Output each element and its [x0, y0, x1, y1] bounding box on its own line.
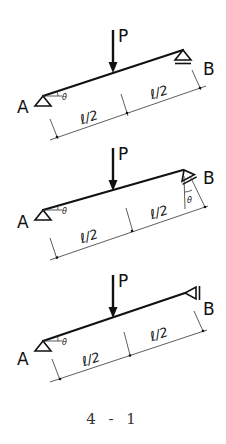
- label-b: B: [203, 168, 215, 188]
- load-arrow-icon: [109, 30, 118, 73]
- span-right-label: ℓ/2: [147, 324, 170, 344]
- pin-support-icon: [35, 210, 51, 220]
- span-left-label: ℓ/2: [77, 107, 100, 127]
- diagram-a: P A θ B ℓ/2 ℓ/2: [17, 26, 215, 140]
- diagram-c: P A θ B ℓ/2 ℓ/2: [17, 271, 215, 382]
- angle-label: θ: [62, 338, 67, 347]
- label-a: A: [17, 97, 29, 117]
- angle-label: θ: [62, 207, 67, 216]
- span-left-label: ℓ/2: [77, 226, 100, 246]
- load-label: P: [118, 26, 128, 46]
- angle-label: θ: [62, 93, 67, 102]
- diagram-b: P A θ B θ ℓ/2 ℓ/2: [17, 144, 215, 260]
- label-b: B: [203, 299, 215, 319]
- inclined-roller-support-icon: [177, 166, 197, 184]
- load-label: P: [118, 144, 128, 164]
- angle-b-label: θ: [187, 196, 192, 205]
- pin-support-icon: [35, 96, 51, 106]
- label-a: A: [17, 212, 29, 232]
- load-arrow-icon: [109, 275, 118, 318]
- beam-diagrams: P A θ B ℓ/2 ℓ/2 P A θ: [0, 0, 226, 444]
- figure-caption: 4 - 1: [0, 410, 226, 428]
- span-right-label: ℓ/2: [147, 202, 170, 222]
- load-arrow-icon: [109, 148, 118, 191]
- label-a: A: [17, 349, 29, 369]
- load-label: P: [118, 271, 128, 291]
- wall-roller-support-icon: [185, 286, 200, 300]
- pin-support-icon: [35, 341, 51, 351]
- label-b: B: [203, 59, 215, 79]
